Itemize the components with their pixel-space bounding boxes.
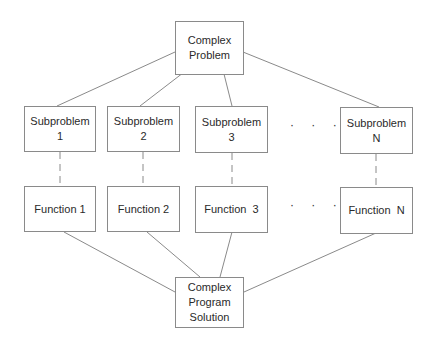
- node-label: Problem: [189, 48, 230, 63]
- node-label: Function N: [348, 203, 404, 218]
- subproblem-node-3: Subproblem 3: [195, 106, 268, 153]
- subproblem-node-n: Subproblem N: [340, 107, 413, 154]
- node-label: Function 1: [34, 202, 85, 217]
- function-node-3: Function 3: [195, 186, 268, 233]
- node-label: Subproblem: [114, 114, 173, 129]
- node-label: Function 3: [204, 202, 258, 217]
- ellipsis-subproblems: · · ·: [290, 118, 344, 132]
- node-label: Subproblem: [347, 116, 406, 131]
- node-index: 1: [57, 129, 63, 144]
- node-index: 2: [140, 129, 146, 144]
- node-label: Complex: [188, 280, 231, 295]
- node-index: 3: [228, 130, 234, 145]
- subproblem-node-1: Subproblem 1: [24, 106, 96, 152]
- node-label: Subproblem: [202, 115, 261, 130]
- node-label: Solution: [190, 310, 230, 325]
- subproblem-node-2: Subproblem 2: [107, 106, 180, 152]
- node-label: Function 2: [118, 202, 169, 217]
- complex-program-solution-node: Complex Program Solution: [175, 277, 244, 328]
- function-node-2: Function 2: [107, 186, 180, 232]
- node-label: Program: [188, 295, 230, 310]
- node-label: Complex: [188, 33, 231, 48]
- node-label: Subproblem: [30, 114, 89, 129]
- function-node-1: Function 1: [24, 186, 96, 232]
- complex-problem-node: Complex Problem: [175, 21, 244, 75]
- node-index: N: [373, 131, 381, 146]
- ellipsis-functions: · · ·: [290, 198, 344, 212]
- function-node-n: Function N: [340, 187, 413, 234]
